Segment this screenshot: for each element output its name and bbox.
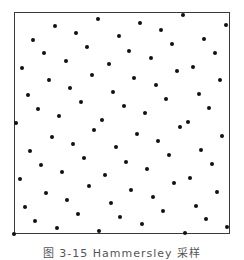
sample-point (181, 13, 185, 17)
sample-point (57, 114, 61, 118)
sample-point (183, 231, 187, 235)
sample-point (36, 107, 40, 111)
sample-point (90, 73, 94, 77)
sample-point (111, 90, 115, 94)
sample-point (132, 76, 136, 80)
sample-point (170, 42, 174, 46)
sample-point (213, 51, 217, 55)
sample-point (87, 184, 91, 188)
sample-point (199, 148, 203, 152)
sample-point (194, 204, 198, 208)
sample-point (138, 21, 142, 25)
sample-point (122, 104, 126, 108)
sample-point (71, 142, 75, 146)
sample-point (65, 198, 69, 202)
sample-point (164, 97, 168, 101)
sample-point (118, 215, 122, 219)
sample-point (26, 93, 30, 97)
sample-point (103, 173, 107, 177)
sample-point (188, 176, 192, 180)
sample-point (68, 86, 72, 90)
sample-point (31, 38, 35, 42)
sample-point (167, 153, 171, 157)
sample-point (20, 66, 24, 70)
sample-point (224, 23, 228, 27)
sample-point (207, 106, 211, 110)
sample-point (97, 229, 101, 233)
sample-point (114, 145, 118, 149)
sample-point (12, 232, 16, 236)
sample-point (220, 134, 224, 138)
sample-point (124, 160, 128, 164)
sample-point (145, 167, 149, 171)
sample-point (64, 59, 68, 63)
sample-point (23, 205, 27, 209)
sample-point (18, 177, 22, 181)
sample-point (175, 69, 179, 73)
sample-point (50, 135, 54, 139)
figure-caption: 图 3-15 Hammersley 采样 (0, 244, 244, 260)
sample-point (204, 217, 208, 221)
sample-point (39, 163, 43, 167)
sample-point (74, 31, 78, 35)
sample-point (191, 65, 195, 69)
sample-point (159, 28, 163, 32)
sample-point (215, 190, 219, 194)
sample-point (129, 188, 133, 192)
sample-point (107, 62, 111, 66)
sample-point (42, 51, 46, 55)
sample-point (127, 49, 131, 53)
sample-point (178, 125, 182, 129)
sample-point (135, 132, 139, 136)
sample-point (76, 212, 80, 216)
sample-point (92, 128, 96, 132)
sample-point (109, 201, 113, 205)
sample-point (149, 56, 153, 60)
sample-point (218, 78, 222, 82)
sample-point (143, 111, 147, 115)
sample-point (100, 118, 104, 122)
sample-point (154, 83, 158, 87)
sample-point (55, 226, 59, 230)
sample-point (151, 195, 155, 199)
sample-point (53, 24, 57, 28)
sample-point (47, 78, 51, 82)
sample-point (96, 17, 100, 21)
sample-point (117, 34, 121, 38)
sample-point (82, 156, 86, 160)
sample-point (210, 162, 214, 166)
sample-point (186, 120, 190, 124)
sample-domain-frame (14, 12, 230, 234)
sample-point (60, 170, 64, 174)
sample-point (197, 92, 201, 96)
sample-point (161, 209, 165, 213)
sample-point (202, 37, 206, 41)
sample-point (85, 45, 89, 49)
sample-point (14, 121, 18, 125)
sample-point (140, 222, 144, 226)
sample-point (79, 100, 83, 104)
sample-point (156, 139, 160, 143)
sample-point (44, 191, 48, 195)
sample-point (225, 225, 229, 229)
sample-point (33, 219, 37, 223)
sample-point (172, 181, 176, 185)
sample-point (28, 149, 32, 153)
